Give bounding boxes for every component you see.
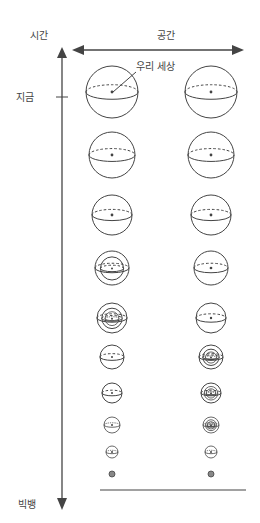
sphere-icon (208, 471, 214, 477)
space-axis-label: 공간 (157, 27, 175, 42)
sphere-icon (106, 446, 118, 458)
sphere-icon (102, 383, 122, 403)
big-bang-label: 빅뱅 (18, 496, 36, 511)
space-axis (72, 45, 244, 55)
sphere-icon (205, 352, 216, 363)
sphere-icon (109, 471, 115, 477)
arrow-left-icon (72, 45, 84, 55)
our-world-pointer (113, 72, 136, 92)
sphere-icon (86, 66, 138, 118)
our-world-label: 우리 세상 (136, 58, 175, 73)
arrow-down-icon (57, 498, 67, 510)
sphere-icon (191, 195, 231, 235)
sphere-icon (185, 66, 237, 118)
time-axis (56, 47, 68, 510)
sphere-icon (104, 417, 120, 433)
sphere-icon (105, 312, 119, 326)
sphere-icon (194, 251, 228, 285)
sphere-icon (89, 132, 135, 178)
arrow-right-icon (232, 45, 244, 55)
sphere-icon (207, 422, 214, 429)
sphere-icon (100, 257, 123, 280)
sphere-icon (100, 345, 124, 369)
arrow-up-icon (57, 47, 67, 58)
sphere-rows (86, 66, 237, 477)
sphere-icon (196, 303, 226, 333)
time-axis-label: 시간 (30, 27, 48, 42)
now-label: 지금 (16, 89, 34, 104)
spacetime-diagram (0, 0, 260, 523)
sphere-icon (188, 132, 234, 178)
sphere-icon (92, 195, 132, 235)
sphere-icon (205, 446, 217, 458)
